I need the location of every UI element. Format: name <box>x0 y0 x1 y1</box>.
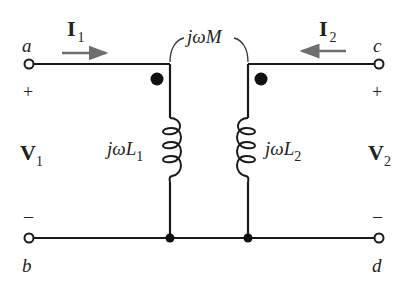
voltage-v1-label: V1 <box>20 140 43 169</box>
current-i1-symbol: I <box>67 16 76 41</box>
v1-minus-sign: – <box>23 206 34 226</box>
junction-dot-left <box>166 234 175 243</box>
coupled-inductor-circuit: a b c d + – + – I1 I2 V1 V2 jωL1 jωL2 jω… <box>0 0 407 282</box>
inductor-l1-label: jωL1 <box>104 138 143 164</box>
mutual-prefix: jω <box>184 26 206 47</box>
current-i1-subscript: 1 <box>78 30 85 45</box>
inductor-l1-subscript: 1 <box>136 149 143 164</box>
terminal-c-label: c <box>373 35 382 56</box>
voltage-v2-subscript: 2 <box>384 154 391 169</box>
terminal-b[interactable] <box>25 234 34 243</box>
inductor-l2-prefix: jω <box>262 138 284 159</box>
terminal-a-label: a <box>22 35 32 56</box>
mutual-name: M <box>205 26 223 47</box>
voltage-v1-symbol: V <box>20 140 36 165</box>
junction-dot-right <box>244 234 253 243</box>
v2-minus-sign: – <box>372 206 383 226</box>
wires <box>33 64 375 238</box>
mutual-bracket-right <box>234 38 248 62</box>
inductor-l2-subscript: 2 <box>294 149 301 164</box>
polarity-dot-l1 <box>151 73 164 86</box>
inductor-l1-prefix: jω <box>104 138 126 159</box>
terminal-b-label: b <box>22 255 32 276</box>
terminal-a[interactable] <box>25 60 34 69</box>
voltage-v2-label: V2 <box>368 140 391 169</box>
inductor-l1-coil <box>163 118 181 183</box>
terminal-d[interactable] <box>375 234 384 243</box>
v1-plus-sign: + <box>23 82 33 102</box>
voltage-v2-symbol: V <box>368 140 384 165</box>
v2-plus-sign: + <box>372 82 382 102</box>
polarity-dot-l2 <box>255 73 268 86</box>
inductor-l2-name: L <box>283 138 295 159</box>
current-i2-label: I2 <box>319 16 337 45</box>
terminal-d-label: d <box>372 255 382 276</box>
current-i1-label: I1 <box>67 16 85 45</box>
inductor-l2-coil <box>237 118 255 183</box>
voltage-v1-subscript: 1 <box>36 154 43 169</box>
terminal-c[interactable] <box>375 60 384 69</box>
current-i2-subscript: 2 <box>330 30 337 45</box>
mutual-bracket-left <box>170 38 184 62</box>
current-i2-symbol: I <box>319 16 328 41</box>
mutual-inductance-label: jωM <box>184 26 223 47</box>
inductor-l2-label: jωL2 <box>262 138 301 164</box>
inductor-l1-name: L <box>125 138 137 159</box>
